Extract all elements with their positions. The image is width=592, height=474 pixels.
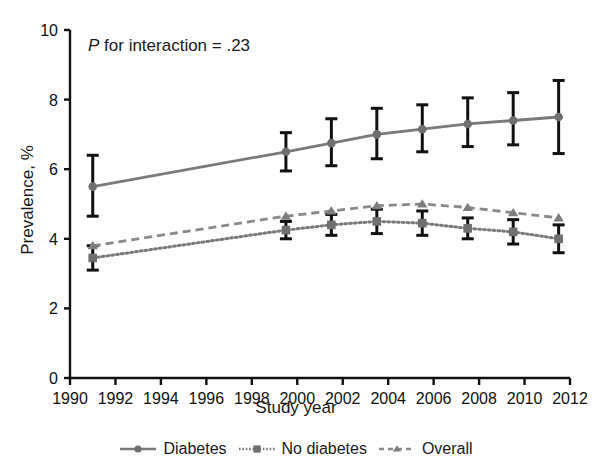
p-value-text: for interaction = .23 bbox=[99, 36, 250, 55]
y-tick-label: 10 bbox=[40, 22, 58, 39]
legend-label-no-diabetes: No diabetes bbox=[282, 440, 367, 458]
y-tick-label: 4 bbox=[49, 231, 58, 248]
y-tick-label: 6 bbox=[49, 161, 58, 178]
data-point-diabetes[interactable] bbox=[88, 182, 97, 191]
x-axis-label: Study year bbox=[0, 398, 592, 418]
data-point-diabetes[interactable] bbox=[418, 125, 427, 134]
legend-swatch-dotted-square-icon bbox=[238, 442, 276, 456]
y-tick-label: 0 bbox=[49, 370, 58, 387]
y-tick-label: 8 bbox=[49, 92, 58, 109]
data-point-no-diabetes[interactable] bbox=[88, 254, 97, 263]
data-point-diabetes[interactable] bbox=[282, 148, 291, 157]
y-axis-label: Prevalence, % bbox=[18, 100, 38, 300]
data-point-diabetes[interactable] bbox=[373, 130, 382, 139]
series-line-no-diabetes bbox=[93, 221, 559, 258]
legend-swatch-dashed-triangle-icon bbox=[378, 442, 416, 456]
data-point-no-diabetes[interactable] bbox=[418, 219, 427, 228]
legend-label-diabetes: Diabetes bbox=[163, 440, 226, 458]
data-point-no-diabetes[interactable] bbox=[373, 217, 382, 226]
data-point-diabetes[interactable] bbox=[509, 116, 518, 125]
data-point-no-diabetes[interactable] bbox=[509, 228, 518, 237]
legend-item-no-diabetes[interactable]: No diabetes bbox=[238, 440, 367, 458]
data-point-no-diabetes[interactable] bbox=[327, 221, 336, 230]
p-value-annotation: P for interaction = .23 bbox=[88, 36, 250, 56]
data-point-no-diabetes[interactable] bbox=[554, 235, 563, 244]
series-line-diabetes bbox=[93, 117, 559, 187]
data-point-no-diabetes[interactable] bbox=[282, 226, 291, 235]
data-point-no-diabetes[interactable] bbox=[463, 224, 472, 233]
chart-figure: 0246810199019921994199619982000200220042… bbox=[0, 0, 592, 474]
p-symbol: P bbox=[88, 36, 99, 55]
legend-item-diabetes[interactable]: Diabetes bbox=[119, 440, 226, 458]
data-point-diabetes[interactable] bbox=[463, 120, 472, 129]
data-point-overall[interactable] bbox=[553, 213, 563, 221]
y-tick-label: 2 bbox=[49, 300, 58, 317]
legend-swatch-solid-circle-icon bbox=[119, 442, 157, 456]
data-point-diabetes[interactable] bbox=[327, 139, 336, 148]
data-point-diabetes[interactable] bbox=[554, 113, 563, 122]
chart-legend: Diabetes No diabetes Overall bbox=[0, 440, 592, 458]
legend-label-overall: Overall bbox=[422, 440, 473, 458]
legend-item-overall[interactable]: Overall bbox=[378, 440, 473, 458]
